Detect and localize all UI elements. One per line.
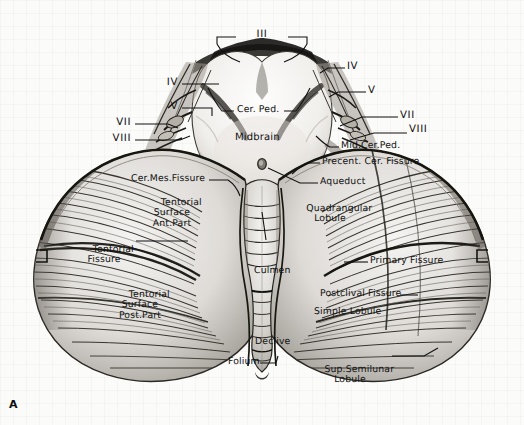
label-cn-iii: III: [257, 30, 268, 41]
label-aqueduct: Aqueduct: [320, 177, 365, 188]
specimen-illustration: [0, 0, 524, 425]
label-cn-iii-text: III: [257, 29, 268, 40]
label-postclival-fissure-text: Postclival Fissure: [320, 288, 401, 299]
label-quadrangular-lobule-text: Quadrangular Lobule: [306, 203, 372, 225]
label-tentorial-surface-posterior: Tentorial Surface Post.Part: [110, 279, 170, 332]
label-middle-cerebellar-peduncle-text: Mid.Cer.Ped.: [341, 140, 400, 151]
label-simple-lobule: Simple Lobule: [314, 307, 381, 318]
label-tentorial-surface-anterior: Tentorial Surface Ant.Part: [142, 187, 202, 240]
label-declive: Declive: [255, 337, 290, 348]
label-primary-fissure-text: Primary Fissure: [370, 255, 443, 266]
label-declive-text: Declive: [255, 336, 290, 347]
label-cerebellomesencephalic-fissure-text: Cer.Mes.Fissure: [131, 173, 205, 184]
label-cn-vii-right-text: VII: [400, 110, 415, 121]
label-cn-v-left: V: [170, 102, 178, 113]
label-cn-iv-left-text: IV: [167, 77, 178, 88]
anatomical-plate: III IV V VII VIII IV V VII VIII Cer. Ped…: [0, 0, 524, 425]
label-cn-iv-left: IV: [167, 78, 178, 89]
label-tentorial-fissure: Tentorial Fissure: [74, 234, 134, 276]
label-cn-viii-left: VIII: [113, 134, 131, 145]
label-primary-fissure: Primary Fissure: [370, 256, 443, 267]
label-cn-viii-right: VIII: [409, 125, 427, 136]
label-cn-iv-right-text: IV: [347, 61, 358, 72]
label-culmen: Culmen: [254, 266, 291, 277]
label-precentral-cerebellar-fissure-text: Precent. Cer. Fissure: [322, 156, 419, 167]
label-midbrain-text: Midbrain: [235, 132, 280, 143]
label-aqueduct-text: Aqueduct: [320, 176, 365, 187]
label-tentorial-surface-anterior-text: Tentorial Surface Ant.Part: [153, 197, 202, 229]
label-cn-v-right: V: [368, 86, 376, 97]
label-cn-v-left-text: V: [170, 101, 178, 112]
aqueduct-marker: [258, 159, 267, 170]
label-middle-cerebellar-peduncle: Mid.Cer.Ped.: [341, 141, 400, 152]
label-superior-semilunar-lobule-text: Sup.Semilunar Lobule: [324, 364, 394, 386]
label-cn-viii-left-text: VIII: [113, 133, 131, 144]
label-midbrain: Midbrain: [235, 133, 280, 144]
label-simple-lobule-text: Simple Lobule: [314, 306, 381, 317]
label-quadrangular-lobule: Quadrangular Lobule: [288, 193, 373, 235]
label-cn-viii-right-text: VIII: [409, 124, 427, 135]
label-cerebral-peduncle: Cer. Ped.: [237, 105, 279, 116]
label-cn-vii-left: VII: [116, 118, 131, 129]
figure-letter: A: [9, 398, 18, 411]
label-culmen-text: Culmen: [254, 265, 291, 276]
label-folium: Folium: [228, 357, 260, 368]
label-tentorial-fissure-text: Tentorial Fissure: [87, 244, 133, 266]
figure-letter-text: A: [9, 398, 18, 411]
label-postclival-fissure: Postclival Fissure: [320, 289, 401, 300]
label-cerebral-peduncle-text: Cer. Ped.: [237, 104, 279, 115]
label-superior-semilunar-lobule: Sup.Semilunar Lobule: [306, 354, 394, 396]
label-tentorial-surface-posterior-text: Tentorial Surface Post.Part: [119, 289, 170, 321]
label-folium-text: Folium: [228, 356, 260, 367]
label-cn-vii-left-text: VII: [116, 117, 131, 128]
label-precentral-cerebellar-fissure: Precent. Cer. Fissure: [322, 157, 419, 168]
label-cerebellomesencephalic-fissure: Cer.Mes.Fissure: [131, 174, 205, 185]
label-cn-iv-right: IV: [347, 62, 358, 73]
label-cn-v-right-text: V: [368, 85, 376, 96]
left-cerebellar-hemisphere: [24, 150, 262, 382]
label-cn-vii-right: VII: [400, 111, 415, 122]
